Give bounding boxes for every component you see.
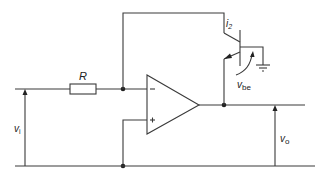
label-vbe: vbe	[237, 79, 251, 92]
noninverting-wire	[123, 120, 147, 166]
vo-arrowhead-icon	[273, 105, 278, 111]
circuit-diagram: R i2 vbe vi vo	[0, 0, 325, 176]
resistor-r	[70, 84, 96, 94]
emitter-arrow-icon	[224, 54, 232, 60]
label-vi: vi	[14, 123, 21, 135]
label-r: R	[79, 70, 87, 82]
op-amp	[147, 75, 199, 134]
label-i2: i2	[226, 18, 232, 30]
transistor-collector	[224, 33, 240, 42]
vbe-arrow	[236, 54, 252, 75]
vbe-arrowhead-icon	[250, 51, 255, 57]
vi-arrowhead-icon	[23, 89, 28, 95]
label-vo: vo	[280, 133, 290, 146]
feedback-wire	[123, 13, 224, 89]
